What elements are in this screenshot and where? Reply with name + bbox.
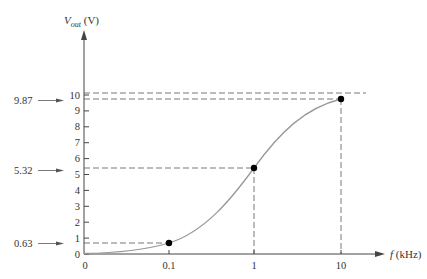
data-point-10 — [338, 96, 344, 102]
svg-text:3: 3 — [75, 201, 80, 212]
svg-text:5: 5 — [75, 169, 80, 180]
chart: Vout (V) f (kHz) 0 1 2 3 4 5 6 7 8 9 10 — [0, 0, 427, 279]
svg-text:1: 1 — [75, 233, 80, 244]
callout-arrow-icon — [56, 169, 64, 173]
y-ticks — [84, 95, 89, 254]
callout-label-0-63: 0.63 — [14, 238, 32, 249]
svg-text:7: 7 — [75, 137, 80, 148]
svg-text:10: 10 — [336, 260, 347, 271]
svg-text:4: 4 — [75, 185, 81, 196]
callouts: 9.87 5.32 0.63 — [14, 95, 64, 249]
svg-text:10: 10 — [70, 90, 81, 101]
svg-text:0.1: 0.1 — [162, 260, 175, 271]
svg-text:0: 0 — [75, 249, 80, 260]
data-points — [166, 96, 344, 246]
x-axis-arrow-icon — [375, 251, 385, 257]
callout-label-5-32: 5.32 — [14, 165, 32, 176]
svg-text:6: 6 — [75, 153, 80, 164]
vout-curve — [84, 99, 341, 254]
data-point-1 — [251, 165, 257, 171]
callout-label-9-87: 9.87 — [14, 95, 32, 106]
callout-arrow-icon — [56, 242, 64, 246]
y-axis-label: Vout (V) — [64, 14, 99, 29]
data-point-0-1 — [166, 240, 172, 246]
x-ticks — [169, 250, 341, 254]
x-axis-label: f (kHz) — [390, 248, 422, 261]
svg-text:0: 0 — [82, 260, 87, 271]
x-tick-labels: 0 0.1 1 10 — [82, 260, 346, 271]
y-tick-labels: 0 1 2 3 4 5 6 7 8 9 10 — [70, 90, 81, 260]
callout-arrow-icon — [56, 99, 64, 103]
svg-text:1: 1 — [251, 260, 256, 271]
svg-text:9: 9 — [75, 105, 80, 116]
guide-lines — [84, 93, 366, 254]
y-axis-arrow-icon — [81, 30, 87, 40]
svg-text:2: 2 — [75, 217, 80, 228]
svg-text:8: 8 — [75, 121, 80, 132]
